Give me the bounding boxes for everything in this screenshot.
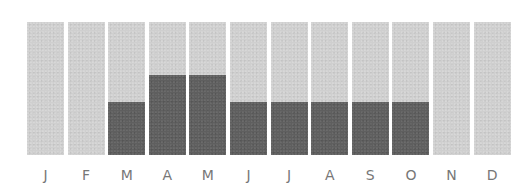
month-label: M <box>108 167 145 183</box>
month-bar <box>230 22 267 155</box>
month-label: S <box>352 167 389 183</box>
value-fill <box>311 102 348 155</box>
month-label: A <box>149 167 186 183</box>
month-label: J <box>27 167 64 183</box>
month-label: D <box>474 167 511 183</box>
month-bar <box>392 22 429 155</box>
month-bar <box>149 22 186 155</box>
month-bar <box>311 22 348 155</box>
month-label: O <box>392 167 429 183</box>
month-label: J <box>271 167 308 183</box>
month-bar <box>474 22 511 155</box>
value-fill <box>149 75 186 155</box>
value-fill <box>230 102 267 155</box>
month-bar <box>271 22 308 155</box>
value-fill <box>189 75 226 155</box>
month-bar <box>189 22 226 155</box>
month-bar-chart <box>27 22 513 155</box>
month-label: M <box>189 167 226 183</box>
value-fill <box>108 102 145 155</box>
month-bar <box>433 22 470 155</box>
value-fill <box>352 102 389 155</box>
value-fill <box>392 102 429 155</box>
month-bar <box>68 22 105 155</box>
month-bar <box>352 22 389 155</box>
month-label: F <box>68 167 105 183</box>
month-label: J <box>230 167 267 183</box>
month-label: N <box>433 167 470 183</box>
value-fill <box>271 102 308 155</box>
month-bar <box>27 22 64 155</box>
month-label: A <box>311 167 348 183</box>
month-bar <box>108 22 145 155</box>
